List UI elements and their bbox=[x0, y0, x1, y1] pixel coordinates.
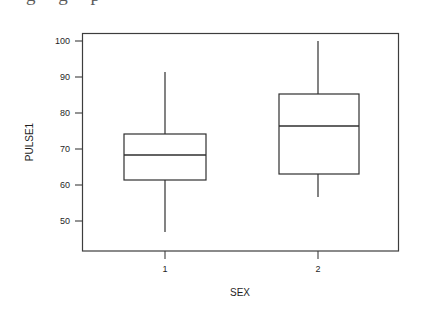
box-iqr bbox=[124, 134, 206, 180]
x-tick-label: 2 bbox=[315, 264, 320, 274]
y-tick-label: 80 bbox=[60, 108, 70, 118]
x-axis-ticks bbox=[165, 251, 318, 259]
boxplot-svg: 100 90 80 70 60 50 PULSE1 1 2 SEX bbox=[0, 0, 421, 316]
y-axis-ticks bbox=[75, 41, 83, 221]
y-tick-label: 50 bbox=[60, 216, 70, 226]
y-tick-label: 100 bbox=[55, 36, 70, 46]
y-tick-label: 60 bbox=[60, 180, 70, 190]
box-plot-group-1 bbox=[124, 72, 206, 232]
y-axis-title: PULSE1 bbox=[24, 122, 35, 161]
box-iqr bbox=[279, 94, 359, 174]
x-tick-label: 1 bbox=[162, 264, 167, 274]
box-plot-group-2 bbox=[279, 41, 359, 197]
x-axis-title: SEX bbox=[230, 287, 250, 298]
x-axis-tick-labels: 1 2 bbox=[162, 264, 320, 274]
y-axis-tick-labels: 100 90 80 70 60 50 bbox=[55, 36, 70, 226]
boxplot-figure: 100 90 80 70 60 50 PULSE1 1 2 SEX bbox=[0, 0, 421, 316]
y-tick-label: 90 bbox=[60, 72, 70, 82]
y-tick-label: 70 bbox=[60, 144, 70, 154]
